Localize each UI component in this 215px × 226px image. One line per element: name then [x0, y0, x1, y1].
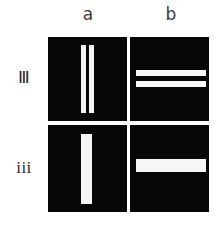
vertical-bar [81, 134, 92, 204]
column-label-a: a [68, 4, 108, 24]
horizontal-bar [136, 159, 206, 172]
horizontal-bar [136, 70, 206, 76]
row-label-iii-lowercase: iii [4, 158, 44, 178]
figure-panel-grid-plate: a b Ⅲ iii [0, 0, 215, 226]
vertical-bar [89, 45, 94, 113]
panel-iii-lower-b [130, 125, 209, 212]
horizontal-bar [136, 81, 206, 87]
column-label-b: b [151, 4, 191, 24]
panel-iii-b [130, 37, 209, 121]
panel-iii-a [48, 37, 127, 121]
stimulus-panel-grid [48, 37, 209, 212]
panel-iii-lower-a [48, 125, 127, 212]
vertical-bar [81, 45, 86, 113]
row-label-iii-uppercase: Ⅲ [4, 68, 44, 88]
